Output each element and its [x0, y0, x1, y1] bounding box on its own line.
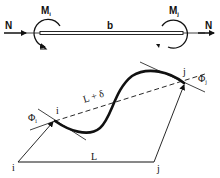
displacement-j-arrow [154, 85, 184, 162]
length-b-label: b [107, 21, 113, 31]
beam-element-diagram: N N Mi Mj b i j i j L + δ L Φi Φj [0, 0, 220, 178]
moment-j-label: Mj [169, 6, 179, 17]
beam-member [40, 32, 183, 35]
original-length-label: L [91, 152, 97, 162]
axial-force-right-label: N [205, 21, 212, 31]
axial-force-left-label: N [5, 21, 12, 31]
node-i-original-label: i [12, 163, 15, 173]
moment-i-label: Mi [41, 6, 51, 17]
deformed-element [18, 62, 205, 162]
rotation-j-label: Φj [198, 74, 207, 85]
node-j-deformed-label: j [183, 67, 186, 77]
node-j-original-label: j [157, 164, 160, 174]
node-i-deformed-label: i [56, 106, 59, 116]
rotation-i-label: Φi [28, 113, 37, 124]
deformed-member-curve [55, 71, 184, 133]
